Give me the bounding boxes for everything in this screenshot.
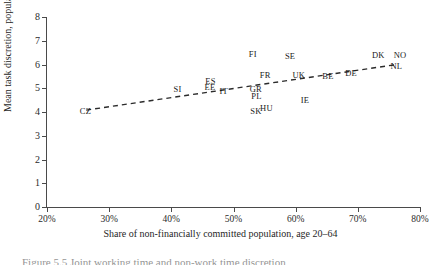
data-point-label-ee: EE	[204, 83, 215, 92]
y-tick-mark	[42, 160, 46, 161]
y-tick-label: 0	[35, 202, 40, 212]
x-tick-label: 40%	[163, 214, 180, 224]
x-tick-mark	[47, 208, 48, 212]
x-axis-title: Share of non-financially committed popul…	[0, 228, 441, 240]
y-tick-label: 2	[35, 155, 40, 165]
y-tick-label: 1	[35, 178, 40, 188]
y-tick-label: 6	[35, 60, 40, 70]
x-tick-mark	[296, 208, 297, 212]
y-tick-label: 5	[35, 83, 40, 93]
data-point-label-cz: CZ	[80, 106, 91, 115]
y-tick-label: 7	[35, 36, 40, 46]
x-tick-label: 80%	[411, 214, 428, 224]
y-tick-mark	[42, 88, 46, 89]
y-tick-mark	[42, 112, 46, 113]
data-point-label-it: IT	[219, 86, 227, 95]
data-point-label-fr: FR	[260, 71, 271, 80]
data-point-label-ie: IE	[301, 96, 309, 105]
data-point-label-se: SE	[285, 51, 295, 60]
data-point-label-pl: PL	[251, 91, 261, 100]
data-point-label-nl: NL	[391, 61, 403, 70]
x-tick-label: 70%	[349, 214, 366, 224]
data-point-label-no: NO	[394, 50, 407, 59]
figure-caption: Figure 5.5 Joint working time and non-wo…	[22, 256, 422, 265]
y-tick-mark	[42, 17, 46, 18]
y-tick-mark	[42, 183, 46, 184]
y-tick-mark	[42, 41, 46, 42]
y-tick-label: 4	[35, 107, 40, 117]
trend-line	[47, 17, 420, 207]
x-tick-mark	[171, 208, 172, 212]
x-tick-mark	[109, 208, 110, 212]
y-tick-mark	[42, 65, 46, 66]
plot-area: 012345678 20%30%40%50%60%70%80% CZSIESEE…	[47, 17, 420, 207]
x-tick-mark	[420, 208, 421, 212]
x-tick-label: 30%	[100, 214, 117, 224]
data-point-label-hu: HU	[260, 103, 273, 112]
data-point-label-dk: DK	[372, 50, 385, 59]
x-tick-mark	[234, 208, 235, 212]
y-tick-mark	[42, 136, 46, 137]
x-tick-mark	[358, 208, 359, 212]
data-point-label-be: BE	[322, 71, 333, 80]
y-tick-label: 8	[35, 12, 40, 22]
x-tick-label: 20%	[38, 214, 55, 224]
y-tick-label: 3	[35, 131, 40, 141]
data-point-label-fi: FI	[249, 49, 257, 58]
data-point-label-uk: UK	[292, 71, 305, 80]
data-point-label-de: DE	[345, 68, 357, 77]
data-point-label-si: SI	[174, 85, 182, 94]
figure-scatter-task-discretion: Mean task discretion, population age 20–…	[0, 0, 441, 265]
x-tick-label: 60%	[287, 214, 304, 224]
y-tick-mark	[42, 207, 46, 208]
y-axis-title: Mean task discretion, population age 20–…	[2, 0, 13, 112]
x-tick-label: 50%	[225, 214, 242, 224]
